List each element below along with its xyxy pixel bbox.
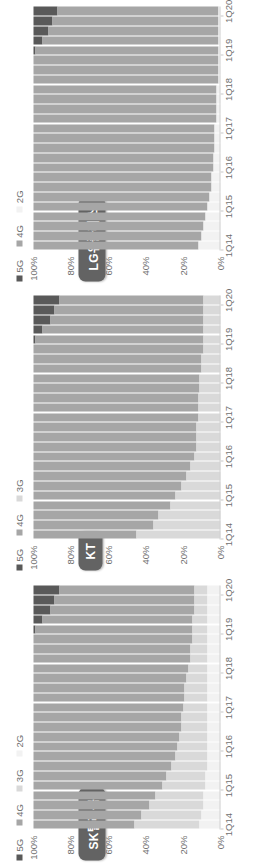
bar-column[interactable] xyxy=(33,432,220,442)
bar-column[interactable] xyxy=(33,643,220,653)
bar-column[interactable] xyxy=(33,221,220,231)
bar-column[interactable] xyxy=(33,480,220,490)
legend-item-3g[interactable]: 3G xyxy=(13,769,24,791)
bar-column[interactable] xyxy=(33,182,220,192)
bar-column[interactable] xyxy=(33,373,220,383)
bar-column[interactable] xyxy=(33,800,220,810)
bar-column[interactable] xyxy=(33,761,220,771)
bar-column[interactable] xyxy=(33,363,220,373)
bar-column[interactable] xyxy=(33,614,220,624)
bar-column[interactable] xyxy=(33,314,220,324)
bar-column[interactable] xyxy=(33,412,220,422)
legend-item-5g[interactable]: 5G xyxy=(13,259,24,281)
bar-column[interactable] xyxy=(33,634,220,644)
bar-column[interactable] xyxy=(33,624,220,634)
bar-column[interactable] xyxy=(33,722,220,732)
bar-column[interactable] xyxy=(33,64,220,74)
bar-column[interactable] xyxy=(33,422,220,432)
bar-segment-3g xyxy=(190,461,220,470)
legend-item-5g[interactable]: 5G xyxy=(13,548,24,570)
legend-swatch-icon xyxy=(16,206,22,212)
bar-column[interactable] xyxy=(33,731,220,741)
bar-column[interactable] xyxy=(33,441,220,451)
bar-column[interactable] xyxy=(33,673,220,683)
bar-column[interactable] xyxy=(33,712,220,722)
bar-column[interactable] xyxy=(33,162,220,172)
bar-column[interactable] xyxy=(33,211,220,221)
bar-column[interactable] xyxy=(33,683,220,693)
bar-column[interactable] xyxy=(33,604,220,614)
bar-column[interactable] xyxy=(33,770,220,780)
bar-column[interactable] xyxy=(33,344,220,354)
bar-column[interactable] xyxy=(33,143,220,153)
bar-column[interactable] xyxy=(33,819,220,829)
bar-column[interactable] xyxy=(33,230,220,240)
bar-column[interactable] xyxy=(33,510,220,520)
bar-column[interactable] xyxy=(33,451,220,461)
bar-column[interactable] xyxy=(33,500,220,510)
legend-item-4g[interactable]: 4G xyxy=(13,804,24,826)
bar-column[interactable] xyxy=(33,295,220,305)
bar-column[interactable] xyxy=(33,790,220,800)
bar-column[interactable] xyxy=(33,519,220,529)
bar-column[interactable] xyxy=(33,35,220,45)
legend-item-5g[interactable]: 5G xyxy=(13,838,24,860)
bar-column[interactable] xyxy=(33,780,220,790)
bar-column[interactable] xyxy=(33,324,220,334)
chart-legend: 5G4G3G2G xyxy=(13,734,24,860)
legend-item-4g[interactable]: 4G xyxy=(13,225,24,247)
legend-swatch-icon xyxy=(16,785,22,791)
x-axis-tick-label: 1Q20 xyxy=(222,578,233,601)
legend-label: 2G xyxy=(13,190,24,203)
bar-column[interactable] xyxy=(33,152,220,162)
bar-column[interactable] xyxy=(33,653,220,663)
bar-column[interactable] xyxy=(33,74,220,84)
bar-column[interactable] xyxy=(33,383,220,393)
bar-column[interactable] xyxy=(33,393,220,403)
x-axis-tick-label: 1Q17 xyxy=(222,405,233,428)
bar-column[interactable] xyxy=(33,402,220,412)
bar-column[interactable] xyxy=(33,461,220,471)
bar-segment-4g xyxy=(33,693,184,702)
bar-column[interactable] xyxy=(33,6,220,16)
bar-column[interactable] xyxy=(33,84,220,94)
bar-column[interactable] xyxy=(33,490,220,500)
x-axis-tick-label: 1Q19 xyxy=(222,617,233,640)
bar-column[interactable] xyxy=(33,16,220,26)
bar-segment-3g xyxy=(194,605,207,614)
bar-segment-4g xyxy=(52,16,218,25)
bar-column[interactable] xyxy=(33,751,220,761)
bar-column[interactable] xyxy=(33,123,220,133)
bar-column[interactable] xyxy=(33,172,220,182)
bar-column[interactable] xyxy=(33,353,220,363)
bar-column[interactable] xyxy=(33,334,220,344)
bar-column[interactable] xyxy=(33,741,220,751)
bar-column[interactable] xyxy=(33,692,220,702)
legend-item-3g[interactable]: 3G xyxy=(13,479,24,501)
bar-segment-2g xyxy=(207,673,220,682)
legend-item-4g[interactable]: 4G xyxy=(13,514,24,536)
bar-column[interactable] xyxy=(33,240,220,250)
bar-column[interactable] xyxy=(33,25,220,35)
bar-column[interactable] xyxy=(33,595,220,605)
bar-segment-3g xyxy=(162,781,205,790)
legend-item-2g[interactable]: 2G xyxy=(13,190,24,212)
bar-column[interactable] xyxy=(33,585,220,595)
bar-column[interactable] xyxy=(33,113,220,123)
legend-item-2g[interactable]: 2G xyxy=(13,734,24,756)
bar-column[interactable] xyxy=(33,471,220,481)
bar-column[interactable] xyxy=(33,133,220,143)
bar-column[interactable] xyxy=(33,104,220,114)
bar-column[interactable] xyxy=(33,45,220,55)
bar-column[interactable] xyxy=(33,529,220,539)
bar-column[interactable] xyxy=(33,809,220,819)
bar-column[interactable] xyxy=(33,94,220,104)
bar-column[interactable] xyxy=(33,305,220,315)
bar-column[interactable] xyxy=(33,201,220,211)
bar-column[interactable] xyxy=(33,663,220,673)
bar-column[interactable] xyxy=(33,191,220,201)
bar-column[interactable] xyxy=(33,702,220,712)
bar-segment-4g xyxy=(33,781,162,790)
x-axis-tick-label: 1Q18 xyxy=(222,656,233,679)
bar-column[interactable] xyxy=(33,55,220,65)
